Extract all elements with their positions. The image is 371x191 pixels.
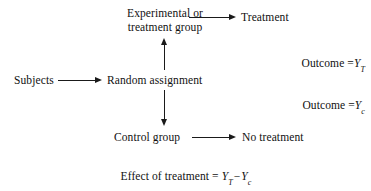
effect-first-subscript: T [228,178,233,187]
node-random-assignment: Random assignment [107,74,202,88]
label-treatment-outcome: Outcome =YT [205,57,365,71]
treatment-outcome-subscript: T [360,65,365,74]
node-subjects: Subjects [14,74,54,88]
effect-second-variable: Y [241,170,248,182]
node-no-treatment: No treatment [242,131,304,145]
effect-second-subscript: c [248,178,252,187]
control-outcome-text: Outcome = [302,99,354,111]
arrow-control-to-no-treatment-icon [192,133,236,142]
experimental-group-line-2: treatment group [128,21,203,33]
arrow-random-to-control-icon [160,90,169,126]
treatment-outcome-text: Outcome = [302,57,354,69]
effect-equation-lead: Effect of treatment = [121,170,219,182]
control-outcome-subscript: c [361,107,365,116]
experiment-flow-diagram: Experimental or treatment group Treatmen… [0,0,371,191]
effect-operator: − [233,170,242,182]
label-control-outcome: Outcome =Yc [205,99,365,113]
node-treatment: Treatment [241,11,289,25]
label-effect-equation: Effect of treatment = YT−Yc [56,170,316,184]
arrow-experimental-to-treatment-icon [189,13,236,22]
node-control-group: Control group [114,131,180,145]
arrow-random-to-experimental-icon [160,38,169,70]
arrow-subjects-to-random-icon [58,76,102,85]
